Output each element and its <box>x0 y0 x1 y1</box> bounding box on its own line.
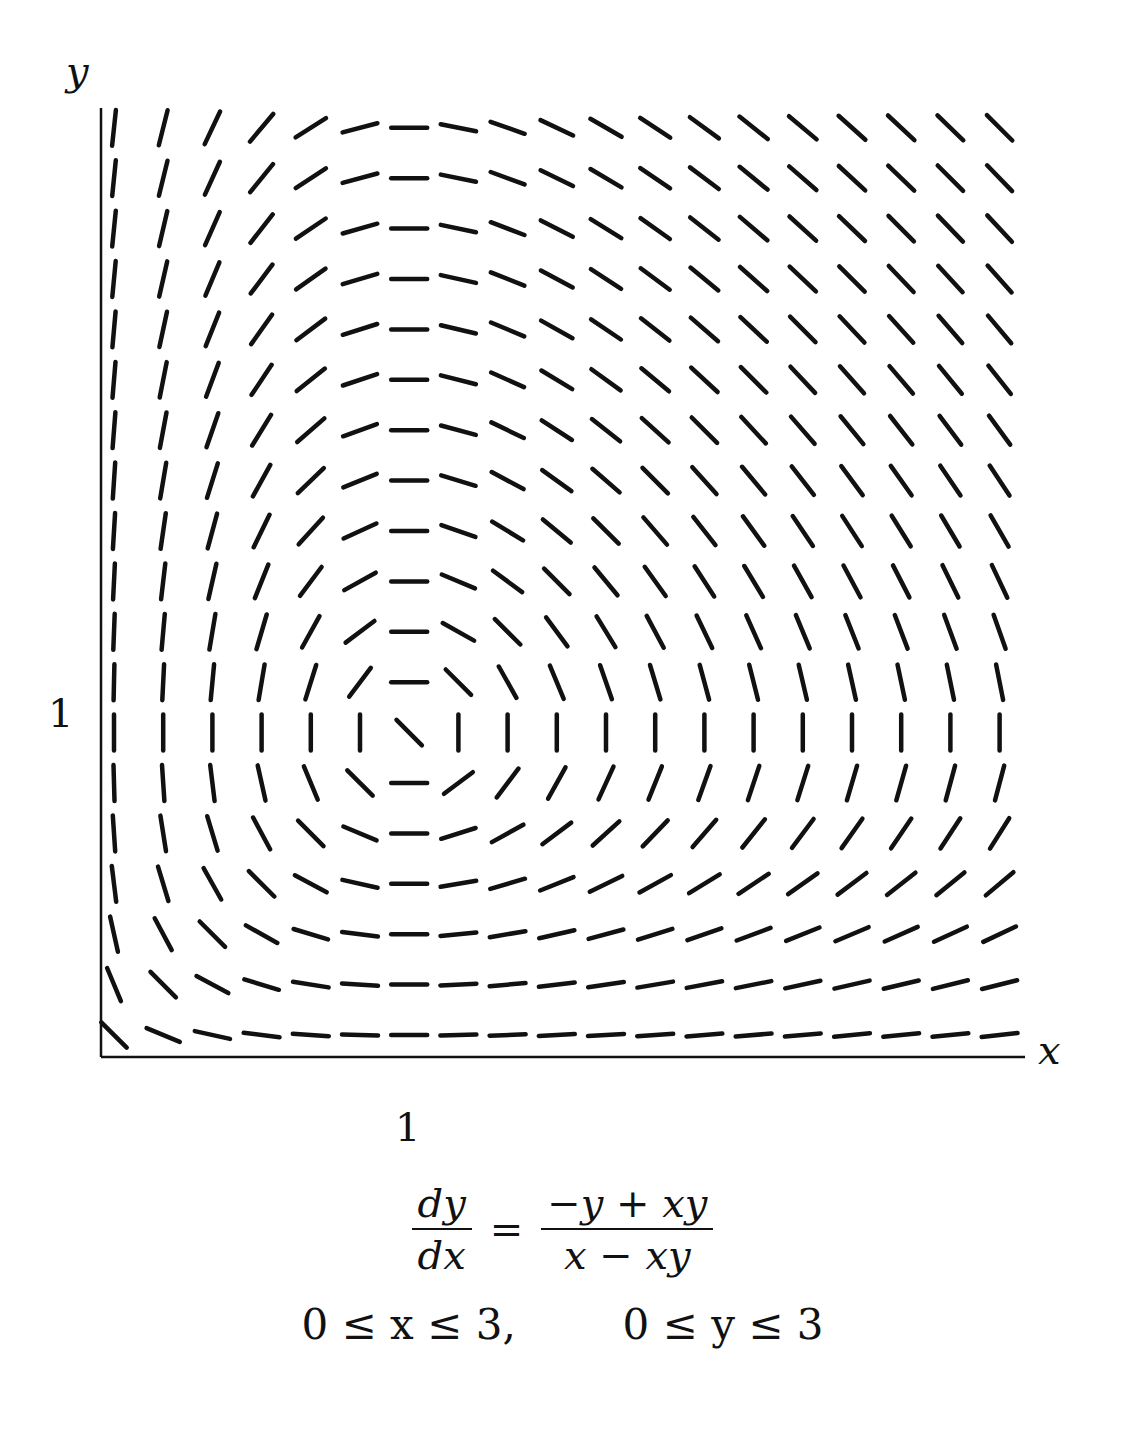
slope-segment <box>257 615 267 650</box>
slope-segment <box>541 321 572 339</box>
slope-segment <box>641 268 670 289</box>
slope-segment <box>155 918 172 950</box>
slope-segment <box>344 573 375 590</box>
slope-segment <box>208 514 217 549</box>
slope-segment <box>161 513 166 549</box>
slope-segment <box>492 825 523 842</box>
slope-segment <box>938 166 963 191</box>
slope-segment <box>305 665 316 699</box>
slope-segment <box>252 365 272 395</box>
slope-segment <box>255 565 268 598</box>
slope-segment <box>208 564 216 599</box>
slope-segment <box>796 615 810 648</box>
slope-segment <box>343 424 377 436</box>
equals-sign: = <box>490 1206 524 1252</box>
slope-segment <box>938 115 964 140</box>
slope-segment <box>690 167 719 189</box>
slope-segment <box>643 820 668 846</box>
slope-segment <box>736 981 771 988</box>
slope-segment <box>839 116 866 140</box>
slope-segment <box>641 368 669 391</box>
slope-segment <box>987 215 1012 241</box>
slope-segment <box>946 766 955 801</box>
slope-segment <box>254 515 270 547</box>
slope-segment <box>249 871 274 896</box>
slope-segment <box>743 516 764 545</box>
slope-segment <box>641 318 669 340</box>
slope-segment <box>982 1033 1018 1037</box>
slope-segment <box>490 931 526 937</box>
slope-segment <box>591 169 622 187</box>
slope-segment <box>250 164 273 192</box>
y-range: 0 ≤ y ≤ 3 <box>623 1300 824 1349</box>
slope-segment <box>938 266 962 292</box>
slope-segment <box>848 665 856 700</box>
slope-segment <box>244 1033 280 1037</box>
slope-segment <box>444 772 473 794</box>
slope-segment <box>691 268 719 291</box>
slope-segment <box>786 928 819 941</box>
y-tick-label-1: 1 <box>48 690 73 736</box>
slope-segment <box>300 567 322 596</box>
slope-segment <box>988 366 1010 394</box>
slope-segment <box>933 1033 969 1037</box>
slope-segment <box>592 419 620 441</box>
slope-segment <box>244 979 278 989</box>
slope-segment <box>640 118 670 138</box>
slope-segment <box>159 161 168 196</box>
slope-segment <box>835 927 868 941</box>
slope-segment <box>541 120 574 135</box>
slope-segment <box>834 981 869 989</box>
slope-segment <box>994 615 1006 649</box>
slope-segment <box>983 927 1016 942</box>
slope-segment <box>987 165 1012 191</box>
slope-segment <box>597 616 616 647</box>
slope-segment <box>159 211 167 246</box>
slope-segment <box>296 219 326 239</box>
slope-segment <box>892 516 911 547</box>
slope-segment <box>996 665 1003 700</box>
slope-segment <box>195 1031 230 1039</box>
slope-segment <box>346 621 375 643</box>
slope-segment <box>690 117 719 138</box>
slope-segment <box>490 983 526 986</box>
slope-segment <box>113 563 115 599</box>
slope-segment <box>441 325 476 333</box>
slope-segment <box>982 980 1017 989</box>
slope-segment <box>790 217 817 241</box>
slope-segment <box>491 373 524 388</box>
slope-segment <box>693 820 717 847</box>
slope-segment <box>205 162 220 195</box>
slope-segment <box>441 933 477 936</box>
slope-segment <box>548 767 565 798</box>
slope-segment <box>790 267 816 292</box>
slope-segment <box>938 216 963 242</box>
slope-segment <box>343 224 378 234</box>
y-axis-label: y <box>66 48 89 94</box>
slope-segment <box>640 168 670 188</box>
slope-segment <box>342 932 378 936</box>
slope-segment <box>491 422 523 438</box>
slope-segment <box>159 110 168 145</box>
slope-segment <box>343 174 378 183</box>
slope-segment <box>588 1034 624 1036</box>
slope-segment <box>342 983 378 985</box>
slope-segment <box>748 766 759 800</box>
slope-segment <box>441 124 476 131</box>
slope-segment <box>742 819 764 847</box>
slope-segment <box>839 166 865 190</box>
slope-segment <box>940 466 960 496</box>
slope-segment <box>834 1033 870 1036</box>
slope-segment <box>160 816 166 852</box>
slope-segment <box>298 821 323 846</box>
slope-segment <box>986 872 1014 895</box>
slope-segment <box>440 1035 476 1036</box>
slope-segment <box>342 1035 378 1036</box>
slope-segment <box>541 371 572 390</box>
slope-segment <box>842 516 862 546</box>
slope-segment <box>785 1033 821 1036</box>
slope-segment <box>250 114 273 142</box>
slope-segment <box>162 765 164 801</box>
slope-segment <box>207 816 217 850</box>
slope-segment <box>542 420 572 440</box>
